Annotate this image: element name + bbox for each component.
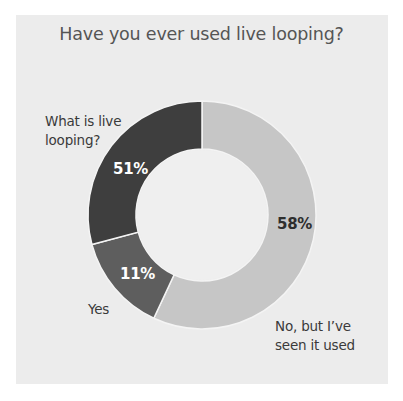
- label-line: seen it used: [275, 336, 355, 355]
- category-label-what-is-live-looping: What is live looping?: [45, 112, 121, 150]
- value-label-yes: 11%: [120, 265, 155, 283]
- value-label-no-seen-it-used: 58%: [277, 215, 312, 233]
- category-label-no-seen-it-used: No, but I’ve seen it used: [275, 317, 355, 355]
- label-line: What is live: [45, 112, 121, 131]
- label-line: looping?: [45, 131, 121, 150]
- label-line: No, but I’ve: [275, 317, 355, 336]
- donut-hole: [137, 150, 267, 280]
- category-label-yes: Yes: [88, 300, 109, 319]
- value-label-what-is-live-looping: 51%: [113, 160, 148, 178]
